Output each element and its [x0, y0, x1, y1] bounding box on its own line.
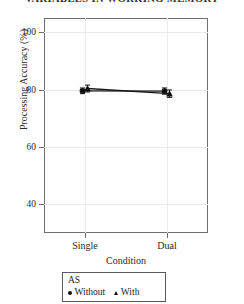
legend-entry-label: With	[121, 287, 140, 298]
y-axis-title: Processing Accuracy (%)	[18, 5, 29, 155]
legend-box: AS WithoutWith	[62, 272, 166, 302]
legend-entry-label: Without	[75, 287, 106, 298]
x-axis-title: Condition	[44, 255, 208, 266]
legend-entries: WithoutWith	[68, 287, 160, 298]
legend-entry: With	[114, 287, 139, 298]
series-svg	[44, 18, 208, 233]
x-axis-tick-label: Single	[55, 240, 115, 251]
y-axis-tick-label: 40	[0, 199, 36, 209]
x-axis-tick-label: Dual	[137, 240, 197, 251]
figure-panel: 406080100SingleDual Processing Accuracy …	[0, 12, 244, 304]
x-axis-tick	[167, 233, 168, 238]
x-axis-tick	[85, 233, 86, 238]
data-series-layer	[44, 18, 208, 233]
running-head: VARIABLES IN WORKING MEMORY	[0, 0, 244, 7]
circle-marker	[68, 291, 72, 295]
legend-title: AS	[68, 275, 160, 286]
legend-entry: Without	[68, 287, 105, 298]
triangle-marker	[114, 291, 118, 295]
